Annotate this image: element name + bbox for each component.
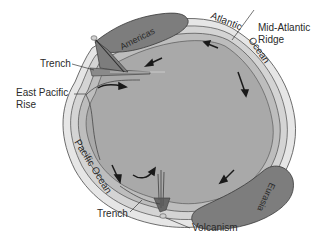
east-pacific-rise-label-1: East Pacific bbox=[16, 87, 68, 98]
east-pacific-rise-label-2: Rise bbox=[16, 99, 36, 110]
volcano-vent-bottom bbox=[160, 214, 166, 219]
volcanism-label: Volcanism bbox=[192, 222, 238, 233]
mid-atlantic-ridge-label-1: Mid-Atlantic bbox=[258, 22, 310, 33]
plate-tectonics-diagram: Americas Eurasia Atlantic Ocean Mid-Atla… bbox=[0, 0, 334, 242]
mid-atlantic-ridge-label-2: Ridge bbox=[258, 34, 285, 45]
volcano-vent-top bbox=[91, 36, 97, 41]
trench-bottom-label: Trench bbox=[97, 208, 128, 219]
trench-top-label: Trench bbox=[40, 58, 71, 69]
